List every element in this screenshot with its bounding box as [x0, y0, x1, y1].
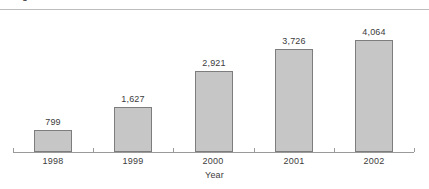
- x-axis-category-label: 1998: [13, 156, 93, 166]
- x-axis-title: Year: [0, 170, 429, 180]
- bar-chart-figure: Figure 7991,6272,9213,7264,064 199819992…: [0, 0, 429, 189]
- x-axis-category-label: 2002: [334, 156, 414, 166]
- bar-item: 3,726: [275, 14, 313, 152]
- caption-divider-rule: [0, 9, 429, 10]
- x-axis-tick: [93, 148, 94, 152]
- figure-caption-clipped: Figure: [0, 0, 429, 4]
- x-axis-category-label: 2000: [173, 156, 253, 166]
- bar-rect: [275, 49, 313, 152]
- x-axis-line: [13, 152, 414, 153]
- x-axis-tick: [414, 148, 415, 152]
- bar-item: 2,921: [195, 14, 233, 152]
- bar-item: 1,627: [114, 14, 152, 152]
- bar-item: 799: [34, 14, 72, 152]
- bar-rect: [355, 40, 393, 152]
- x-axis-tick: [334, 148, 335, 152]
- x-axis-category-label: 1999: [93, 156, 173, 166]
- bar-value-label: 799: [34, 117, 72, 127]
- bar-rect: [195, 71, 233, 152]
- x-axis-category-label: 2001: [254, 156, 334, 166]
- bar-rect: [34, 130, 72, 152]
- figure-caption-text: Figure: [14, 0, 42, 1]
- bar-value-label: 1,627: [114, 94, 152, 104]
- bar-item: 4,064: [355, 14, 393, 152]
- bar-rect: [114, 107, 152, 152]
- bar-value-label: 2,921: [195, 58, 233, 68]
- x-axis-tick: [173, 148, 174, 152]
- x-axis-tick: [13, 148, 14, 152]
- bar-value-label: 4,064: [355, 27, 393, 37]
- bar-value-label: 3,726: [275, 36, 313, 46]
- x-axis-tick: [254, 148, 255, 152]
